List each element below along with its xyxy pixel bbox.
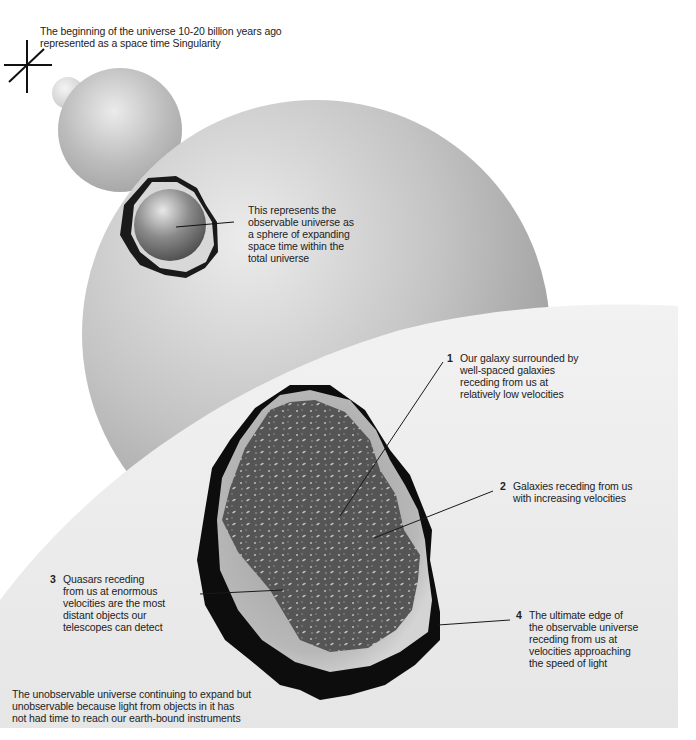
callout-text: The ultimate edge of the observable univ…	[529, 609, 638, 669]
observable-universe-text: This represents the observable universe …	[248, 204, 354, 264]
callout-number: 2	[500, 480, 506, 492]
callout-2: 2 Galaxies receding from us with increas…	[513, 480, 632, 504]
callout-text: Galaxies receding from us with increasin…	[513, 480, 632, 504]
unobservable-universe-text: The unobservable universe continuing to …	[12, 688, 251, 724]
callout-1: 1 Our galaxy surrounded by well-spaced g…	[460, 352, 578, 400]
callout-number: 4	[516, 609, 522, 621]
callout-text: Our galaxy surrounded by well-spaced gal…	[460, 352, 578, 400]
singularity-label: The beginning of the universe 10-20 bill…	[40, 25, 282, 49]
callout-3: 3 Quasars receding from us at enormous v…	[63, 573, 165, 633]
callout-4: 4 The ultimate edge of the observable un…	[529, 609, 638, 669]
callout-text: Quasars receding from us at enormous vel…	[63, 573, 165, 633]
observable-universe-label: This represents the observable universe …	[248, 204, 354, 264]
callout-number: 1	[447, 352, 453, 364]
unobservable-universe-label: The unobservable universe continuing to …	[12, 688, 251, 724]
callout-number: 3	[50, 573, 56, 585]
singularity-text: The beginning of the universe 10-20 bill…	[40, 25, 282, 49]
